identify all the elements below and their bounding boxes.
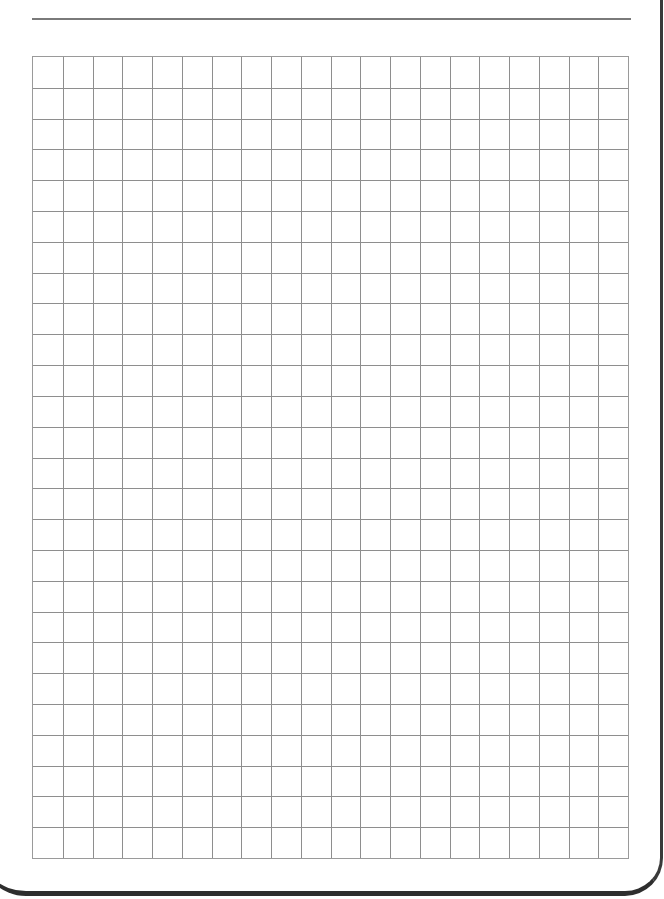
header-rule-line	[32, 18, 631, 20]
grid-horizontal-line	[33, 704, 628, 705]
grid-horizontal-line	[33, 242, 628, 243]
grid-horizontal-line	[33, 827, 628, 828]
grid-horizontal-line	[33, 488, 628, 489]
grid-horizontal-line	[33, 673, 628, 674]
grid-horizontal-line	[33, 365, 628, 366]
grid-horizontal-line	[33, 88, 628, 89]
grid-horizontal-line	[33, 612, 628, 613]
grid-horizontal-line	[33, 334, 628, 335]
grid-horizontal-line	[33, 180, 628, 181]
grid-horizontal-line	[33, 458, 628, 459]
grid-horizontal-line	[33, 581, 628, 582]
grid-horizontal-line	[33, 396, 628, 397]
grid-horizontal-line	[33, 550, 628, 551]
grid-horizontal-line	[33, 766, 628, 767]
graph-grid	[32, 56, 629, 859]
grid-horizontal-line	[33, 273, 628, 274]
grid-horizontal-line	[33, 735, 628, 736]
grid-horizontal-line	[33, 796, 628, 797]
grid-horizontal-line	[33, 119, 628, 120]
grid-horizontal-line	[33, 642, 628, 643]
grid-horizontal-line	[33, 303, 628, 304]
grid-horizontal-line	[33, 519, 628, 520]
grid-horizontal-line	[33, 427, 628, 428]
grid-horizontal-line	[33, 149, 628, 150]
grid-lines	[33, 57, 628, 858]
grid-horizontal-line	[33, 211, 628, 212]
